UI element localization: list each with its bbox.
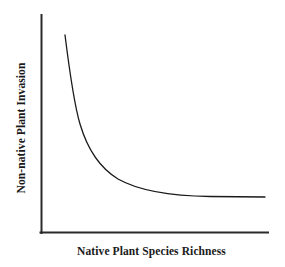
y-axis-label: Non-native Plant Invasion <box>12 28 30 228</box>
data-curve-line <box>65 35 265 197</box>
chart-figure: Non-native Plant Invasion Native Plant S… <box>0 0 285 267</box>
x-axis-label: Native Plant Species Richness <box>0 245 285 257</box>
chart-plot-area <box>0 0 285 267</box>
